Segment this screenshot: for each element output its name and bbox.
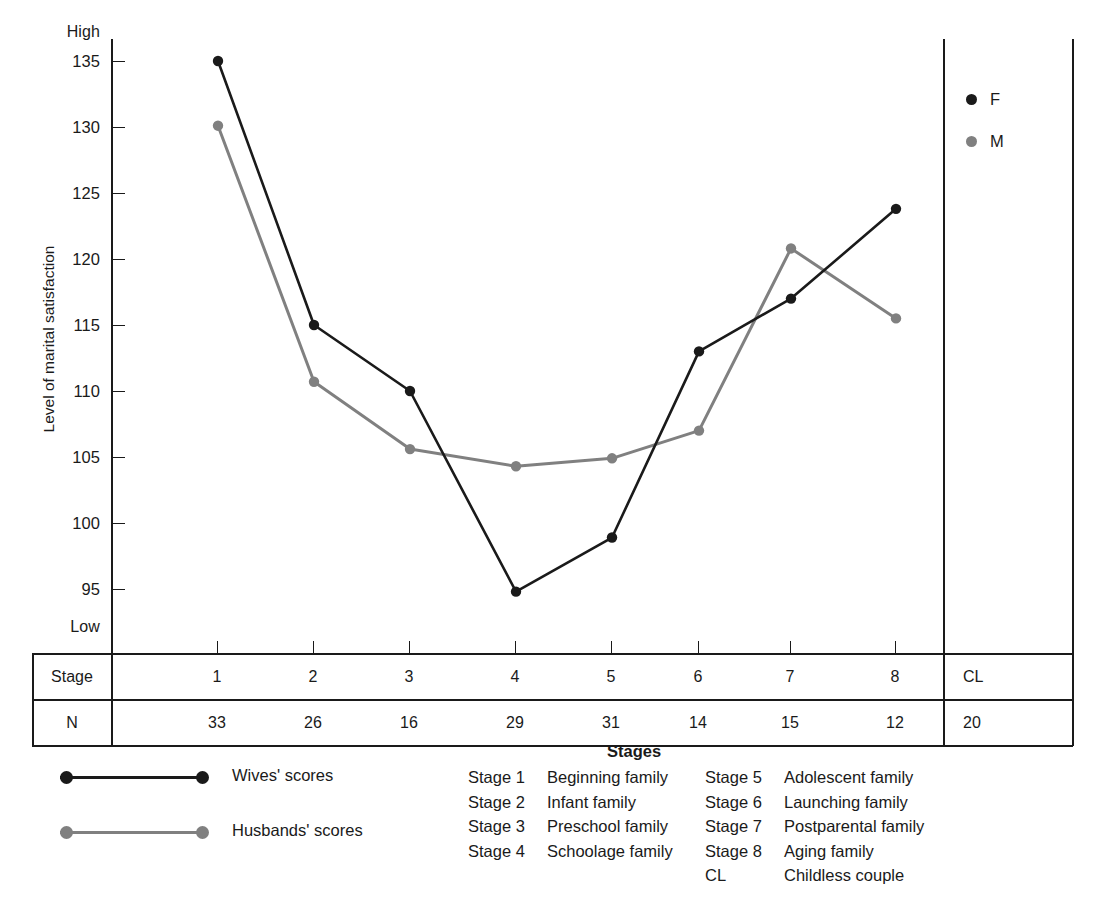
stages-caption-right-column: Stage 5 Adolescent family Stage 6 Launch…	[705, 768, 924, 891]
table-left-edge	[32, 654, 34, 746]
stage-line: CL Childless couple	[705, 866, 924, 891]
table-row-n: N 33 26 16 29 31 14 15 12 20	[32, 700, 1073, 745]
legend-dot-m	[966, 136, 977, 147]
stage-line: Stage 6 Launching family	[705, 793, 924, 818]
table-cell-n-2: 26	[273, 700, 353, 745]
data-point	[607, 532, 617, 542]
stage-description: Adolescent family	[784, 768, 913, 793]
table-cell-n-cl: 20	[943, 700, 1093, 745]
stage-line: Stage 1 Beginning family	[468, 768, 673, 793]
stage-number: Stage 3	[468, 817, 547, 842]
data-point	[213, 120, 223, 130]
plot-legend: F M	[966, 78, 1004, 162]
stage-number: Stage 8	[705, 842, 784, 867]
stage-line: Stage 3 Preschool family	[468, 817, 673, 842]
stage-description: Beginning family	[547, 768, 668, 793]
stage-line: Stage 7 Postparental family	[705, 817, 924, 842]
stage-description: Postparental family	[784, 817, 924, 842]
data-point	[786, 293, 796, 303]
series-line	[218, 61, 896, 592]
table-cl-divider	[943, 654, 945, 746]
data-point	[213, 56, 223, 66]
plot-area	[0, 0, 1103, 899]
stages-caption-title: Stages	[607, 742, 661, 761]
key-dot-husbands-end	[196, 826, 209, 839]
stage-number: Stage 4	[468, 842, 547, 867]
table-cell-n-3: 16	[369, 700, 449, 745]
plot-legend-item-m: M	[966, 120, 1004, 162]
table-cell-stage-6: 6	[658, 654, 738, 699]
stage-description: Infant family	[547, 793, 636, 818]
stage-description: Launching family	[784, 793, 908, 818]
stage-description: Aging family	[784, 842, 874, 867]
stage-line: Stage 5 Adolescent family	[705, 768, 924, 793]
data-point	[694, 346, 704, 356]
table-cell-n-5: 31	[571, 700, 651, 745]
key-label-husbands: Husbands' scores	[232, 821, 363, 840]
stage-number: Stage 7	[705, 817, 784, 842]
legend-dot-f	[966, 94, 977, 105]
stage-line: Stage 4 Schoolage family	[468, 842, 673, 867]
stage-line: Stage 8 Aging family	[705, 842, 924, 867]
data-point	[405, 444, 415, 454]
table-cell-stage-3: 3	[369, 654, 449, 699]
stages-caption-left-column: Stage 1 Beginning family Stage 2 Infant …	[468, 768, 673, 866]
stage-description: Schoolage family	[547, 842, 673, 867]
table-cell-n-1: 33	[177, 700, 257, 745]
table-cell-stage-1: 1	[177, 654, 257, 699]
key-line-husbands	[60, 831, 208, 834]
data-point	[694, 425, 704, 435]
table-cell-stage-5: 5	[571, 654, 651, 699]
stage-number: CL	[705, 866, 784, 891]
data-point	[786, 243, 796, 253]
key-dot-husbands-start	[60, 826, 73, 839]
data-point	[405, 386, 415, 396]
stage-line: Stage 2 Infant family	[468, 793, 673, 818]
table-cell-stage-7: 7	[750, 654, 830, 699]
key-label-wives: Wives' scores	[232, 766, 333, 785]
table-cell-n-8: 12	[855, 700, 935, 745]
table-right-edge	[1072, 654, 1074, 746]
table-rowhead-n: N	[32, 700, 112, 745]
data-point	[891, 204, 901, 214]
key-dot-wives-end	[196, 771, 209, 784]
stage-number: Stage 2	[468, 793, 547, 818]
data-point	[511, 461, 521, 471]
data-point	[607, 453, 617, 463]
table-cell-n-7: 15	[750, 700, 830, 745]
data-point	[511, 586, 521, 596]
table-head-divider	[111, 654, 113, 746]
marital-satisfaction-figure: Level of marital satisfaction High 135 1…	[0, 0, 1103, 899]
data-point	[309, 320, 319, 330]
table-cell-stage-8: 8	[855, 654, 935, 699]
stage-number: Stage 6	[705, 793, 784, 818]
table-cell-stage-2: 2	[273, 654, 353, 699]
series-husbands	[213, 120, 901, 471]
series-wives	[213, 56, 901, 597]
table-rowhead-stage: Stage	[32, 654, 112, 699]
legend-label-f: F	[990, 90, 1000, 109]
data-point	[309, 377, 319, 387]
key-dot-wives-start	[60, 771, 73, 784]
key-line-wives	[60, 776, 208, 779]
table-cell-stage-cl: CL	[943, 654, 1093, 699]
table-row-stage: Stage 1 2 3 4 5 6 7 8 CL	[32, 654, 1073, 699]
table-bottom-line	[32, 745, 1073, 747]
table-cell-n-4: 29	[475, 700, 555, 745]
stage-number: Stage 1	[468, 768, 547, 793]
plot-legend-item-f: F	[966, 78, 1004, 120]
table-cell-stage-4: 4	[475, 654, 555, 699]
table-cell-n-6: 14	[658, 700, 738, 745]
data-point	[891, 313, 901, 323]
stage-number: Stage 5	[705, 768, 784, 793]
legend-label-m: M	[990, 132, 1004, 151]
stage-description: Childless couple	[784, 866, 904, 891]
stage-description: Preschool family	[547, 817, 668, 842]
